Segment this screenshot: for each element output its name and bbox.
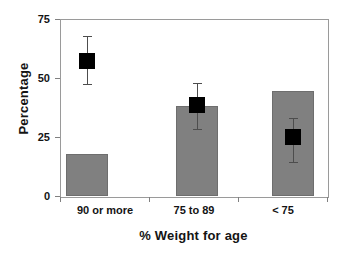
plot-area bbox=[60, 19, 327, 196]
errorbar-marker bbox=[79, 53, 95, 69]
y-axis-tick-labels: 75 50 25 0 bbox=[26, 0, 50, 262]
x-tick-label-less-than-75: < 75 bbox=[223, 204, 343, 216]
errorbar-marker bbox=[285, 129, 301, 145]
errorbar-cap-upper bbox=[83, 36, 92, 37]
errorbar-cap-lower bbox=[193, 129, 202, 130]
errorbar-cap-upper bbox=[289, 118, 298, 119]
chart-figure: Percentage 75 50 25 0 bbox=[0, 0, 350, 262]
x-tick-mark-2 bbox=[238, 197, 239, 202]
y-tick-label-75: 75 bbox=[26, 13, 50, 25]
errorbar-cap-upper bbox=[193, 83, 202, 84]
x-tick-mark-1 bbox=[149, 197, 150, 202]
y-tick-label-0: 0 bbox=[26, 190, 50, 202]
errorbar-cap-lower bbox=[83, 84, 92, 85]
x-tick-mark-end bbox=[327, 197, 328, 202]
errorbar-cap-lower bbox=[289, 162, 298, 163]
errorbar-marker bbox=[189, 97, 205, 113]
bar-90-or-more bbox=[66, 154, 108, 196]
x-tick-mark-start bbox=[60, 197, 61, 202]
y-tick-label-25: 25 bbox=[26, 131, 50, 143]
y-tick-label-50: 50 bbox=[26, 72, 50, 84]
x-axis-title: % Weight for age bbox=[60, 228, 327, 243]
